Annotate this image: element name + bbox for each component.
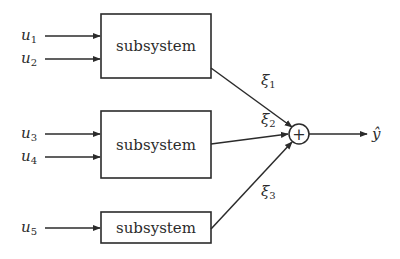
- input-label-u2: u2: [21, 49, 37, 68]
- xi1-label: ξ1: [261, 71, 276, 90]
- subsystem-label-2: subsystem: [116, 136, 196, 154]
- xi3-label: ξ3: [261, 182, 276, 201]
- summing-junction: +: [289, 124, 309, 144]
- subsystem-label-3: subsystem: [116, 219, 196, 237]
- xi2-arrow: [211, 134, 288, 144]
- subsystem-block-3: subsystem: [101, 212, 211, 243]
- xi1-arrow: [211, 68, 292, 127]
- output-label-y-hat: ŷ: [371, 125, 381, 143]
- input-label-u1: u1: [21, 26, 37, 45]
- input-label-u5: u5: [21, 218, 37, 237]
- subsystem-block-1: subsystem: [101, 14, 211, 78]
- plus-icon: +: [292, 125, 305, 144]
- input-label-u4: u4: [21, 147, 37, 166]
- input-label-u3: u3: [21, 124, 37, 143]
- xi3-arrow: [211, 142, 292, 229]
- block-diagram: subsystem subsystem subsystem u1 u2 u3 u…: [0, 0, 400, 259]
- subsystem-block-2: subsystem: [101, 111, 211, 178]
- subsystem-label-1: subsystem: [116, 37, 196, 55]
